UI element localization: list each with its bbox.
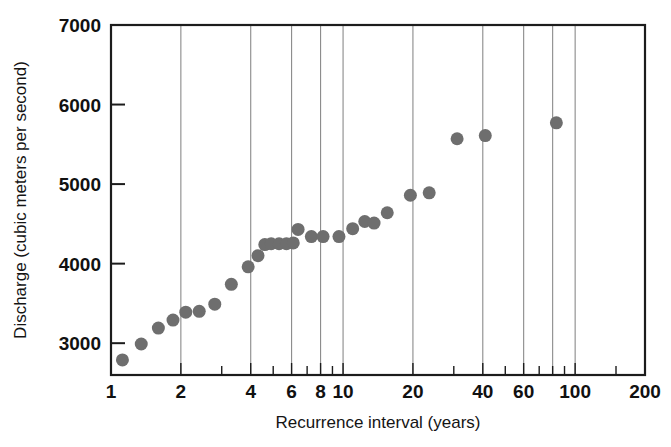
y-tick-label-5000: 5000 (59, 174, 101, 195)
x-tick-label-10: 10 (332, 381, 353, 402)
data-point (479, 129, 492, 142)
y-tick-label-7000: 7000 (59, 15, 101, 36)
x-tick-label-8: 8 (315, 381, 326, 402)
data-point (287, 236, 300, 249)
y-tick-label-6000: 6000 (59, 95, 101, 116)
data-point-group (116, 116, 563, 366)
data-point (404, 189, 417, 202)
data-point (550, 116, 563, 129)
x-tick-label-200: 200 (629, 381, 661, 402)
x-tick-label-2: 2 (176, 381, 187, 402)
data-point (381, 206, 394, 219)
data-point (179, 306, 192, 319)
y-axis-ticks: 30004000500060007000 (59, 15, 125, 354)
x-tick-label-4: 4 (245, 381, 256, 402)
grid-lines (181, 25, 575, 375)
chart-figure: 30004000500060007000 1246810204060100200… (0, 0, 671, 447)
x-tick-label-6: 6 (286, 381, 297, 402)
x-axis-ticks: 1246810204060100200 (106, 363, 661, 402)
data-point (225, 278, 238, 291)
data-point (423, 186, 436, 199)
data-point (116, 353, 129, 366)
y-tick-label-3000: 3000 (59, 333, 101, 354)
data-point (317, 230, 330, 243)
x-tick-label-20: 20 (402, 381, 423, 402)
data-point (346, 222, 359, 235)
data-point (135, 337, 148, 350)
data-point (252, 249, 265, 262)
data-point (292, 223, 305, 236)
data-point (193, 305, 206, 318)
x-axis-title: Recurrence interval (years) (275, 413, 480, 432)
plot-frame (111, 25, 645, 375)
y-axis-title: Discharge (cubic meters per second) (11, 61, 30, 339)
y-tick-label-4000: 4000 (59, 254, 101, 275)
x-tick-label-60: 60 (513, 381, 534, 402)
x-tick-label-40: 40 (472, 381, 493, 402)
data-point (451, 132, 464, 145)
scatter-plot: 30004000500060007000 1246810204060100200… (0, 0, 671, 447)
x-tick-label-1: 1 (106, 381, 117, 402)
data-point (305, 230, 318, 243)
data-point (167, 314, 180, 327)
data-point (152, 322, 165, 335)
data-point (332, 230, 345, 243)
data-point (208, 298, 221, 311)
x-tick-label-100: 100 (559, 381, 591, 402)
data-point (368, 217, 381, 230)
data-point (242, 260, 255, 273)
